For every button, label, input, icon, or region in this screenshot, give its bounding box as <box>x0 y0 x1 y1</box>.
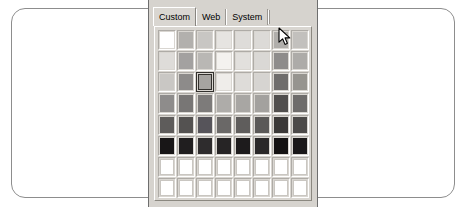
swatch-cell[interactable] <box>234 115 252 135</box>
swatch-color <box>293 138 307 154</box>
swatch-color <box>179 95 193 111</box>
swatch-cell[interactable] <box>215 115 233 135</box>
swatch-cell[interactable] <box>158 157 176 177</box>
swatch-color <box>293 95 307 111</box>
swatch-cell[interactable] <box>234 30 252 50</box>
swatch-cell[interactable] <box>196 178 214 198</box>
swatch-cell[interactable] <box>291 72 309 92</box>
swatch-color <box>293 53 307 69</box>
swatch-cell[interactable] <box>177 51 195 71</box>
swatch-cell[interactable] <box>253 93 271 113</box>
swatch-color <box>179 159 193 175</box>
swatch-cell[interactable] <box>253 136 271 156</box>
swatch-cell[interactable] <box>253 30 271 50</box>
swatch-color <box>255 32 269 48</box>
swatch-cell[interactable] <box>158 178 176 198</box>
swatch-cell[interactable] <box>234 93 252 113</box>
swatch-cell[interactable] <box>234 157 252 177</box>
swatch-color <box>179 53 193 69</box>
swatch-cell[interactable] <box>234 51 252 71</box>
swatch-cell[interactable] <box>177 157 195 177</box>
swatch-color <box>217 95 231 111</box>
swatch-color <box>217 138 231 154</box>
swatch-cell[interactable] <box>158 51 176 71</box>
swatch-cell-selected[interactable] <box>196 72 214 92</box>
swatch-cell[interactable] <box>253 115 271 135</box>
swatch-color <box>236 53 250 69</box>
swatch-cell[interactable] <box>158 115 176 135</box>
swatch-color <box>293 74 307 90</box>
swatch-color <box>198 159 212 175</box>
swatch-cell[interactable] <box>291 136 309 156</box>
swatch-cell[interactable] <box>196 136 214 156</box>
swatch-color <box>274 159 288 175</box>
swatch-cell[interactable] <box>291 157 309 177</box>
swatch-cell[interactable] <box>291 30 309 50</box>
swatch-cell[interactable] <box>253 72 271 92</box>
swatch-color <box>293 117 307 133</box>
swatch-cell[interactable] <box>215 30 233 50</box>
swatch-cell[interactable] <box>177 115 195 135</box>
swatch-cell[interactable] <box>272 115 290 135</box>
swatch-cell[interactable] <box>177 72 195 92</box>
swatch-grid[interactable] <box>158 30 309 198</box>
swatch-cell[interactable] <box>272 178 290 198</box>
swatch-color <box>179 74 193 90</box>
swatch-cell[interactable] <box>272 51 290 71</box>
swatch-cell[interactable] <box>215 51 233 71</box>
swatch-cell[interactable] <box>272 157 290 177</box>
swatch-cell[interactable] <box>215 157 233 177</box>
swatch-cell[interactable] <box>196 51 214 71</box>
swatch-cell[interactable] <box>215 72 233 92</box>
swatch-cell[interactable] <box>253 178 271 198</box>
tab-strip: Custom Web System <box>149 8 317 26</box>
swatch-color <box>236 32 250 48</box>
swatch-cell[interactable] <box>215 178 233 198</box>
swatch-cell[interactable] <box>196 115 214 135</box>
swatch-cell[interactable] <box>177 178 195 198</box>
swatch-color <box>160 74 174 90</box>
swatch-cell[interactable] <box>215 136 233 156</box>
swatch-cell[interactable] <box>215 93 233 113</box>
tab-web[interactable]: Web <box>196 9 226 25</box>
swatch-cell[interactable] <box>158 72 176 92</box>
swatch-color <box>160 53 174 69</box>
swatch-color <box>293 180 307 196</box>
swatch-cell[interactable] <box>177 30 195 50</box>
swatch-color <box>236 159 250 175</box>
swatch-cell[interactable] <box>177 136 195 156</box>
swatch-cell[interactable] <box>158 30 176 50</box>
tab-custom[interactable]: Custom <box>153 7 196 26</box>
swatch-cell[interactable] <box>272 93 290 113</box>
swatch-color <box>274 138 288 154</box>
swatch-cell[interactable] <box>196 157 214 177</box>
swatch-cell[interactable] <box>196 30 214 50</box>
swatch-cell[interactable] <box>253 51 271 71</box>
tab-system-label: System <box>232 13 262 22</box>
swatch-cell[interactable] <box>272 136 290 156</box>
swatch-cell[interactable] <box>177 93 195 113</box>
swatch-color <box>274 180 288 196</box>
color-picker-panel: Custom Web System <box>148 0 318 207</box>
swatch-cell[interactable] <box>253 157 271 177</box>
swatch-cell[interactable] <box>196 93 214 113</box>
swatch-cell[interactable] <box>291 178 309 198</box>
swatch-color <box>217 32 231 48</box>
swatch-cell[interactable] <box>234 178 252 198</box>
swatch-cell[interactable] <box>291 115 309 135</box>
swatch-color <box>160 159 174 175</box>
tab-system[interactable]: System <box>226 9 268 25</box>
swatch-cell[interactable] <box>291 93 309 113</box>
tab-web-label: Web <box>202 13 220 22</box>
swatch-cell[interactable] <box>234 136 252 156</box>
swatch-color <box>236 117 250 133</box>
swatch-cell[interactable] <box>158 93 176 113</box>
swatch-cell[interactable] <box>158 136 176 156</box>
swatch-color <box>179 180 193 196</box>
swatch-cell[interactable] <box>272 30 290 50</box>
swatch-color <box>217 53 231 69</box>
tab-custom-label: Custom <box>159 13 190 22</box>
swatch-cell[interactable] <box>272 72 290 92</box>
swatch-cell[interactable] <box>234 72 252 92</box>
swatch-cell[interactable] <box>291 51 309 71</box>
